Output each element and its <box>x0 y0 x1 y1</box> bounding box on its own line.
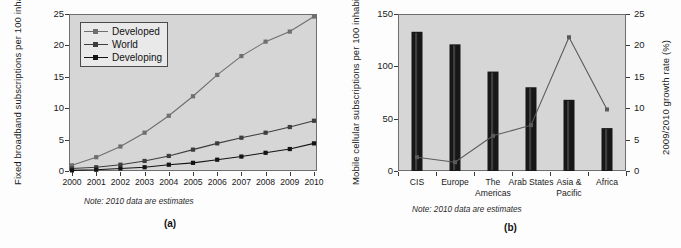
panel-b-bar <box>412 32 423 171</box>
panel-a-note: Note: 2010 data are estimates <box>84 197 194 206</box>
panel-b-bar <box>564 100 575 171</box>
panel-b-bar <box>526 87 537 171</box>
panel-b-note: Note: 2010 data are estimates <box>412 205 522 214</box>
panel-a-series-developing <box>70 141 316 172</box>
panel-b-bar <box>488 72 499 171</box>
legend-line-icon <box>84 39 108 50</box>
panel-a-legend-label: Developing <box>112 52 162 63</box>
legend-line-icon <box>84 26 108 37</box>
panel-a-legend-item-developed[interactable]: Developed <box>84 25 163 38</box>
panel-a-legend-item-developing[interactable]: Developing <box>84 51 163 64</box>
panel-a-legend-label: World <box>112 39 138 50</box>
panel-a: Fixed broadband subscriptions per 100 in… <box>0 0 340 248</box>
panel-b-growth-line <box>415 35 609 164</box>
panel-a-legend-item-world[interactable]: World <box>84 38 163 51</box>
panel-a-legend: DevelopedWorldDeveloping <box>80 22 168 67</box>
panel-b-bar <box>450 44 461 171</box>
panel-b-label: (b) <box>340 222 681 233</box>
legend-line-icon <box>84 52 108 63</box>
panel-b-bar <box>602 128 613 171</box>
panel-a-legend-label: Developed <box>112 26 160 37</box>
figure-root: Fixed broadband subscriptions per 100 in… <box>0 0 681 248</box>
panel-a-label: (a) <box>0 218 340 229</box>
panel-b: Mobile cellular subscriptions per 100 in… <box>340 0 681 248</box>
panel-a-series-layer <box>0 0 340 248</box>
